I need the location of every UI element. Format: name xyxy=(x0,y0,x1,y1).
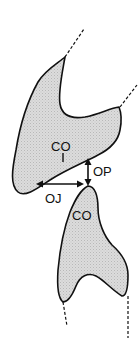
lower-tooth-root-line-left xyxy=(63,302,67,326)
overbite-arrow: OP xyxy=(85,158,112,186)
upper-tooth: CO xyxy=(13,29,138,194)
arrow-down-icon xyxy=(85,179,92,186)
occlusion-diagram: CO CO OP OJ xyxy=(0,0,140,353)
overjet-label: OJ xyxy=(45,191,62,206)
lower-tooth: CO xyxy=(58,186,128,338)
lower-tooth-label: CO xyxy=(72,208,92,223)
arrow-right-icon xyxy=(77,181,84,188)
upper-tooth-root-line-left xyxy=(65,29,84,57)
lower-tooth-crown xyxy=(58,186,128,302)
upper-tooth-label: CO xyxy=(51,139,71,154)
overbite-label: OP xyxy=(93,164,112,179)
upper-tooth-root-line-right xyxy=(120,85,137,107)
